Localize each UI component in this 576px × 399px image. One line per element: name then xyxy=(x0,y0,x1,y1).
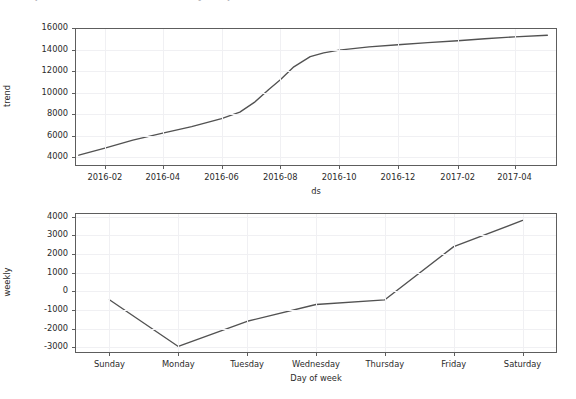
weekly-x-tick-label: Sunday xyxy=(75,359,143,369)
trend-y-tick-label: 6000 xyxy=(32,130,68,140)
trend-gridline-h xyxy=(76,50,556,51)
weekly-y-tick-label: 4000 xyxy=(32,211,68,221)
weekly-y-tickmark xyxy=(72,310,75,311)
weekly-y-tick-label: 2000 xyxy=(32,248,68,258)
trend-gridline-v xyxy=(280,29,281,165)
trend-gridline-v xyxy=(398,29,399,165)
trend-x-tick-label: 2016-10 xyxy=(311,172,367,182)
weekly-x-tickmark xyxy=(178,353,179,356)
weekly-y-tickmark xyxy=(72,273,75,274)
weekly-y-tickmark xyxy=(72,291,75,292)
weekly-x-tickmark xyxy=(247,353,248,356)
weekly-x-tick-label: Thursday xyxy=(351,359,419,369)
trend-y-tickmark xyxy=(72,50,75,51)
trend-x-tickmark xyxy=(458,166,459,169)
weekly-gridline-v xyxy=(454,214,455,352)
weekly-gridline-v xyxy=(178,214,179,352)
trend-x-tickmark xyxy=(280,166,281,169)
trend-x-tick-label: 2016-02 xyxy=(77,172,133,182)
weekly-x-tick-label: Wednesday xyxy=(282,359,350,369)
trend-y-tickmark xyxy=(72,71,75,72)
weekly-gridline-v xyxy=(523,214,524,352)
weekly-y-tick-label: -3000 xyxy=(32,341,68,351)
trend-x-tickmark xyxy=(222,166,223,169)
weekly-x-tick-label: Saturday xyxy=(489,359,557,369)
trend-y-tick-label: 16000 xyxy=(32,22,68,32)
trend-y-tickmark xyxy=(72,157,75,158)
weekly-y-tick-label: 3000 xyxy=(32,229,68,239)
weekly-x-tickmark xyxy=(316,353,317,356)
weekly-x-tickmark xyxy=(523,353,524,356)
weekly-y-tick-label: -2000 xyxy=(32,323,68,333)
trend-x-tick-label: 2017-04 xyxy=(487,172,543,182)
weekly-y-tickmark xyxy=(72,254,75,255)
weekly-x-tickmark xyxy=(109,353,110,356)
trend-x-tick-label: 2016-12 xyxy=(370,172,426,182)
trend-x-tick-label: 2017-02 xyxy=(430,172,486,182)
weekly-y-tick-label: 1000 xyxy=(32,267,68,277)
weekly-x-tick-label: Tuesday xyxy=(213,359,281,369)
trend-x-tick-label: 2016-06 xyxy=(194,172,250,182)
trend-y-tick-label: 14000 xyxy=(32,44,68,54)
trend-gridline-h xyxy=(76,93,556,94)
trend-y-tickmark xyxy=(72,28,75,29)
weekly-y-tickmark xyxy=(72,347,75,348)
trend-y-tickmark xyxy=(72,114,75,115)
weekly-x-tick-label: Monday xyxy=(144,359,212,369)
trend-y-tickmark xyxy=(72,136,75,137)
weekly-x-tickmark xyxy=(385,353,386,356)
weekly-y-tickmark xyxy=(72,329,75,330)
trend-y-tick-label: 8000 xyxy=(32,108,68,118)
weekly-series-svg xyxy=(0,0,576,399)
trend-gridline-v xyxy=(105,29,106,165)
trend-y-tickmark xyxy=(72,93,75,94)
prophet-components-figure: Prophet forecast — trend and weekly comp… xyxy=(0,0,576,399)
trend-y-tick-label: 10000 xyxy=(32,87,68,97)
weekly-y-tickmark xyxy=(72,235,75,236)
trend-gridline-h xyxy=(76,136,556,137)
weekly-x-tick-label: Friday xyxy=(420,359,488,369)
trend-gridline-v xyxy=(458,29,459,165)
trend-gridline-v xyxy=(163,29,164,165)
trend-gridline-v xyxy=(222,29,223,165)
weekly-y-tick-label: -1000 xyxy=(32,304,68,314)
trend-x-tickmark xyxy=(105,166,106,169)
trend-x-tickmark xyxy=(515,166,516,169)
trend-y-tick-label: 4000 xyxy=(32,151,68,161)
weekly-y-tickmark xyxy=(72,217,75,218)
trend-gridline-v xyxy=(515,29,516,165)
weekly-gridline-v xyxy=(385,214,386,352)
weekly-x-tickmark xyxy=(454,353,455,356)
trend-gridline-h xyxy=(76,114,556,115)
trend-x-tickmark xyxy=(163,166,164,169)
trend-y-tick-label: 12000 xyxy=(32,65,68,75)
trend-gridline-h xyxy=(76,157,556,158)
weekly-gridline-v xyxy=(109,214,110,352)
weekly-y-tick-label: 0 xyxy=(32,285,68,295)
trend-x-tick-label: 2016-08 xyxy=(252,172,308,182)
trend-gridline-h xyxy=(76,71,556,72)
trend-x-tick-label: 2016-04 xyxy=(135,172,191,182)
trend-x-tickmark xyxy=(398,166,399,169)
weekly-gridline-v xyxy=(247,214,248,352)
trend-gridline-v xyxy=(339,29,340,165)
trend-x-tickmark xyxy=(339,166,340,169)
weekly-gridline-v xyxy=(316,214,317,352)
